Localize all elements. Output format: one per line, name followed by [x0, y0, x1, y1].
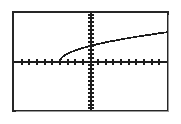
screenshot-root [0, 0, 181, 124]
plotted-curve [60, 32, 167, 61]
curve-group [60, 32, 167, 61]
graph-svg [14, 13, 167, 110]
graph-plot-area[interactable] [14, 13, 167, 110]
calculator-screen-frame [12, 11, 169, 112]
